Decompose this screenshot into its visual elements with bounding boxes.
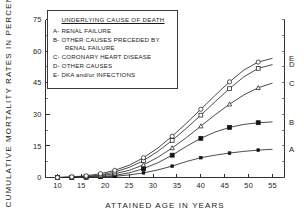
end-label-E: E <box>289 54 294 63</box>
marker-B <box>256 121 260 125</box>
series-line-B <box>57 122 272 178</box>
marker-E <box>98 172 102 176</box>
y-tick-label-75: 75 <box>33 15 42 24</box>
marker-B <box>199 136 203 140</box>
legend-item-b: B- OTHER CAUSES PRECEDED BY RENAL FAILUR… <box>53 36 173 51</box>
marker-C <box>256 85 260 89</box>
y-tick-label-45: 45 <box>33 78 42 87</box>
marker-E <box>256 60 260 64</box>
marker-E <box>141 156 145 160</box>
legend-item-a: A- RENAL FAILURE <box>53 27 173 35</box>
mortality-chart-figure: 0153045607510152025303540455055ABCDEATTA… <box>0 0 304 217</box>
marker-E <box>227 80 231 84</box>
legend-item-a-label: A- RENAL FAILURE <box>53 27 111 34</box>
marker-A <box>200 156 203 159</box>
y-tick-label-0: 0 <box>37 173 41 182</box>
marker-E <box>170 134 174 138</box>
marker-A <box>257 149 260 152</box>
legend-item-e: E- DKA and/or INFECTIONS <box>53 71 173 79</box>
x-axis-title: ATTAINED AGE IN YEARS <box>105 201 225 210</box>
legend-item-c-label: C- CORONARY HEART DISEASE <box>53 53 151 60</box>
marker-D <box>170 139 174 143</box>
marker-A <box>171 165 174 168</box>
marker-B <box>228 125 232 129</box>
legend-item-d-label: D- OTHER CAUSES <box>53 62 112 69</box>
marker-A <box>142 172 145 175</box>
marker-C <box>170 146 174 150</box>
marker-D <box>256 66 260 70</box>
legend-item-d: D- OTHER CAUSES <box>53 62 173 70</box>
marker-D <box>228 87 232 91</box>
x-tick-label-15: 15 <box>77 181 86 190</box>
x-tick-label-50: 50 <box>244 181 253 190</box>
x-tick-label-25: 25 <box>125 181 134 190</box>
y-axis-title: CUMULATIVE MORTALITY RATES IN PERCENT <box>4 0 13 207</box>
legend-item-b-label-cont: RENAL FAILURE <box>53 44 173 52</box>
x-tick-label-30: 30 <box>149 181 158 190</box>
y-tick-label-30: 30 <box>33 110 42 119</box>
marker-B <box>170 153 174 157</box>
marker-C <box>141 163 145 167</box>
marker-E <box>70 175 74 179</box>
legend-item-e-label: E- DKA and/or INFECTIONS <box>53 71 135 78</box>
end-label-C: C <box>289 79 295 88</box>
series-line-A <box>57 149 272 177</box>
x-tick-label-10: 10 <box>53 181 62 190</box>
series-line-C <box>57 83 272 177</box>
marker-E <box>199 107 203 111</box>
y-tick-label-60: 60 <box>33 47 42 56</box>
legend-title: UNDERLYING CAUSE OF DEATH <box>53 16 173 23</box>
x-tick-label-55: 55 <box>268 181 277 190</box>
y-tick-label-15: 15 <box>33 142 42 151</box>
marker-C <box>227 102 231 106</box>
end-label-A: A <box>289 145 295 154</box>
marker-E <box>113 168 117 172</box>
marker-E <box>84 174 88 178</box>
legend-panel: UNDERLYING CAUSE OF DEATH A- RENAL FAILU… <box>47 10 178 89</box>
x-tick-label-45: 45 <box>220 181 229 190</box>
marker-E <box>55 175 59 179</box>
x-tick-label-20: 20 <box>101 181 110 190</box>
x-tick-label-35: 35 <box>173 181 182 190</box>
legend-item-b-label: B- OTHER CAUSES PRECEDED BY <box>53 36 160 43</box>
marker-A <box>228 152 231 155</box>
x-tick-label-40: 40 <box>197 181 206 190</box>
end-label-B: B <box>289 118 294 127</box>
marker-D <box>199 113 203 117</box>
legend-item-c: C- CORONARY HEART DISEASE <box>53 53 173 61</box>
marker-B <box>141 167 145 171</box>
